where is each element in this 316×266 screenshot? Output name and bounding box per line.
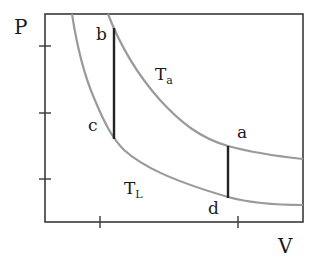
pv-diagram-svg: P V b c a d Ta TL: [0, 0, 316, 266]
isotherm-label-upper-main: T: [155, 64, 167, 84]
y-axis-label: P: [14, 15, 27, 39]
point-label-a: a: [237, 122, 247, 142]
isotherm-upper-curve: [108, 14, 303, 159]
isotherm-label-upper: Ta: [155, 64, 173, 87]
point-label-c: c: [88, 115, 98, 135]
x-axis-label: V: [277, 234, 293, 258]
plot-frame: [45, 14, 303, 222]
isotherm-label-lower-main: T: [124, 178, 136, 198]
isotherm-label-upper-sub: a: [166, 74, 173, 87]
point-label-d: d: [208, 198, 219, 218]
isotherm-label-lower-sub: L: [135, 188, 143, 201]
isotherm-label-lower: TL: [124, 178, 143, 201]
pv-diagram: P V b c a d Ta TL: [0, 0, 316, 266]
point-label-b: b: [96, 24, 107, 44]
